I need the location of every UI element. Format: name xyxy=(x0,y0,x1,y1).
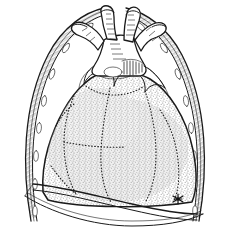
thorax-illustration xyxy=(0,0,230,234)
anatomical-figure: Anterior view of the thorax showing the … xyxy=(0,0,230,234)
